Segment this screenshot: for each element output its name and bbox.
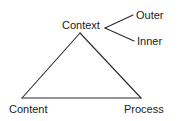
node-label-context: Context [62, 19, 100, 31]
edge-context-content [22, 33, 80, 98]
node-label-content: Content [9, 103, 48, 115]
node-label-process: Process [124, 103, 164, 115]
edge-context-process [80, 33, 141, 98]
edge-context-outer [105, 15, 133, 28]
edge-context-inner [105, 28, 134, 41]
triangle-diagram: Context Content Process Outer Inner [0, 0, 181, 121]
node-label-inner: Inner [137, 35, 162, 47]
node-label-outer: Outer [136, 9, 164, 21]
